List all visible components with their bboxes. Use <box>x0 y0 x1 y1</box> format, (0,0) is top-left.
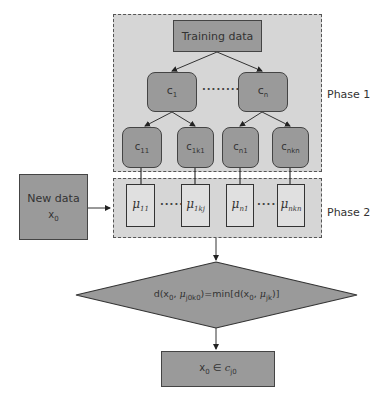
result-box: x0 ∈ cj0 <box>161 351 275 387</box>
centroid-box-munkn: μnkn <box>277 184 305 227</box>
cluster-label: cn <box>258 84 269 99</box>
training-data-box: Training data <box>173 20 262 52</box>
centroid-box-mu11: μ11 <box>126 184 155 227</box>
subcluster-box-c11: c11 <box>122 127 162 168</box>
subcluster-label: cnkn <box>281 141 299 155</box>
new-data-title: New data <box>27 192 79 205</box>
centroid-label: μ11 <box>132 197 149 213</box>
subcluster-box-cnkn: cnkn <box>272 127 309 168</box>
subcluster-box-c1k1: c1k1 <box>177 127 214 168</box>
centroid-box-mun1: μn1 <box>226 184 254 227</box>
subcluster-label: c1k1 <box>186 141 204 155</box>
decision-formula: d(x0, μj0k0)=min[d(x0, μjk)] <box>76 288 357 302</box>
phase2-label: Phase 2 <box>327 206 370 219</box>
subcluster-label: c11 <box>135 141 149 155</box>
subcluster-label: cn1 <box>233 141 247 155</box>
centroid-box-mu1kj: μ1kj <box>181 184 210 227</box>
phase1-label: Phase 1 <box>327 88 370 101</box>
new-data-box: New data x0 <box>19 174 88 240</box>
cluster-box-c1: c1 <box>147 72 197 112</box>
centroid-label: μnkn <box>280 197 301 213</box>
cluster-label: c1 <box>167 84 178 99</box>
training-data-label: Training data <box>182 30 254 43</box>
centroid-label: μ1kj <box>186 197 205 213</box>
new-data-variable: x0 <box>48 209 58 223</box>
result-label: x0 ∈ cj0 <box>199 362 236 376</box>
subcluster-box-cn1: cn1 <box>222 127 259 168</box>
centroid-label: μn1 <box>232 197 249 213</box>
cluster-box-cn: cn <box>238 72 288 112</box>
